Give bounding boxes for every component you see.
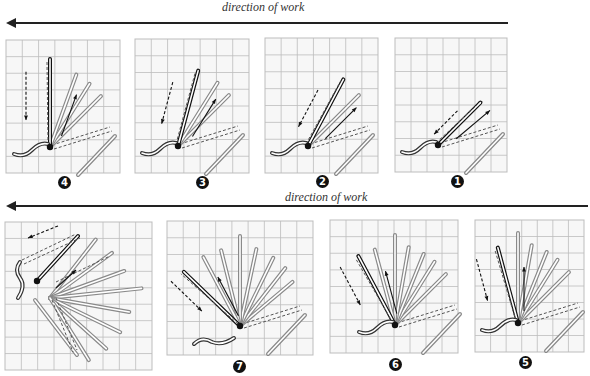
direction-label-top: direction of work [222,0,304,15]
pivot-point [34,278,40,284]
step-badge-3: 3 [196,176,209,189]
step-badge-4: 4 [58,176,71,189]
step-badge-6: 6 [389,358,402,371]
pivot-point [435,142,441,148]
stitch-grid-diagram [265,38,378,173]
stitch-grid-diagram [167,221,313,355]
step-badge-1: 1 [451,175,464,188]
step-panel-8 [5,222,152,370]
step-panel-4 [6,40,120,173]
pivot-point [305,143,311,149]
stitch-grid-diagram [135,39,249,173]
stitch-grid-diagram [5,222,152,370]
step-panel-2 [265,38,378,173]
step-panel-7 [167,221,313,355]
stitch-grid-diagram [330,220,458,353]
step-panel-1 [395,38,507,172]
step-badge-2: 2 [316,175,329,188]
stitch-grid-diagram [395,38,507,172]
step-badge-5: 5 [519,356,532,369]
pivot-point [175,143,181,149]
stitch-grid-diagram [475,220,584,352]
direction-arrow-bottom [8,205,588,207]
step-panel-3 [135,39,249,173]
stitch-grid-diagram [6,40,120,173]
pivot-point [392,322,398,328]
pivot-point [515,320,521,326]
step-panel-6 [330,220,458,353]
pivot-point [47,144,53,150]
direction-arrow-top [8,22,508,24]
direction-label-bottom: direction of work [285,190,367,205]
step-panel-5 [475,220,584,352]
step-badge-7: 7 [233,360,246,373]
pivot-point [237,323,243,329]
